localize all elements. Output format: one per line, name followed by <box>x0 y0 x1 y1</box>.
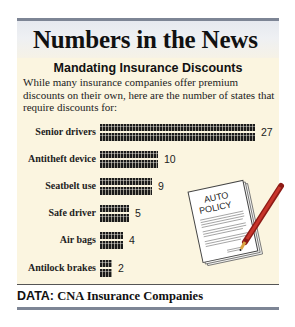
bar <box>100 260 112 277</box>
source-name: CNA Insurance Companies <box>57 289 203 303</box>
bar-value: 10 <box>164 153 176 165</box>
bar-label: Antilock brakes <box>28 262 96 273</box>
bar <box>100 205 129 222</box>
bar <box>100 178 152 195</box>
bar-label: Safe driver <box>49 207 97 218</box>
bar <box>100 124 255 141</box>
footer-divider <box>17 307 279 310</box>
bar-value: 9 <box>158 180 164 192</box>
bar-label: Antitheft device <box>28 153 96 164</box>
bar-row: Senior drivers27 <box>17 124 279 142</box>
bar-label: Senior drivers <box>35 126 96 137</box>
bar <box>100 151 158 168</box>
bar-value: 27 <box>261 126 273 138</box>
bar-value: 4 <box>129 234 135 246</box>
bar-value: 5 <box>135 207 141 219</box>
page-title: Numbers in the News <box>33 26 258 54</box>
chart-title: Mandating Insurance Discounts <box>17 61 279 75</box>
source-footer: DATA: CNA Insurance Companies <box>17 284 279 313</box>
bar-value: 2 <box>118 262 124 274</box>
bar-label: Seatbelt use <box>45 180 96 191</box>
bar <box>100 232 123 249</box>
auto-policy-document-with-pen-icon: AUTO POLICY <box>185 166 285 266</box>
source-label: DATA: <box>17 289 54 303</box>
bar-label: Air bags <box>60 234 96 245</box>
chart-description: While many insurance companies offer pre… <box>23 76 279 114</box>
header-band: Numbers in the News <box>17 18 279 58</box>
infographic-panel: Numbers in the News Mandating Insurance … <box>17 18 279 284</box>
source-line: DATA: CNA Insurance Companies <box>17 289 203 304</box>
